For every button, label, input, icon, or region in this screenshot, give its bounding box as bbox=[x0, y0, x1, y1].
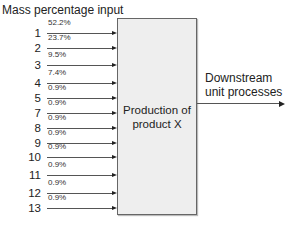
input-number: 2 bbox=[35, 42, 41, 54]
input-number: 13 bbox=[28, 202, 41, 214]
input-percentage: 0.9% bbox=[48, 178, 66, 187]
input-number: 4 bbox=[35, 77, 41, 89]
input-arrow-line bbox=[47, 208, 113, 209]
input-percentage: 7.4% bbox=[48, 68, 66, 77]
process-label-line2: product X bbox=[117, 117, 197, 131]
input-number: 11 bbox=[29, 169, 41, 181]
output-label-line2: unit processes bbox=[205, 85, 282, 99]
input-percentage: 0.9% bbox=[48, 128, 66, 137]
arrow-right-icon bbox=[279, 101, 285, 107]
input-number: 5 bbox=[35, 92, 41, 104]
input-percentage: 52.2% bbox=[48, 18, 71, 27]
input-number: 9 bbox=[35, 137, 41, 149]
input-number: 3 bbox=[35, 59, 41, 71]
input-number: 12 bbox=[28, 187, 41, 199]
input-arrow-line bbox=[47, 48, 113, 49]
process-box-label: Production of product X bbox=[117, 103, 197, 131]
input-arrow-line bbox=[47, 175, 113, 176]
input-percentage: 0.9% bbox=[48, 142, 66, 151]
input-number: 8 bbox=[35, 122, 41, 134]
input-number: 10 bbox=[28, 151, 41, 163]
input-number: 1 bbox=[35, 27, 41, 39]
process-label-line1: Production of bbox=[117, 103, 197, 117]
input-number: 7 bbox=[35, 107, 41, 119]
input-flow-row: 130.9% bbox=[0, 200, 118, 214]
input-percentage: 0.9% bbox=[48, 83, 66, 92]
input-arrow-line bbox=[47, 65, 113, 66]
input-arrow-line bbox=[47, 157, 113, 158]
input-percentage: 0.9% bbox=[48, 160, 66, 169]
output-arrow-line bbox=[197, 103, 280, 104]
input-percentage: 9.5% bbox=[48, 50, 66, 59]
diagram-title: Mass percentage input bbox=[2, 3, 123, 17]
output-label-line1: Downstream bbox=[205, 71, 282, 85]
input-percentage: 0.9% bbox=[48, 113, 66, 122]
input-percentage: 0.9% bbox=[48, 193, 66, 202]
output-label: Downstream unit processes bbox=[205, 71, 282, 99]
input-percentage: 0.9% bbox=[48, 98, 66, 107]
input-percentage: 23.7% bbox=[48, 33, 71, 42]
